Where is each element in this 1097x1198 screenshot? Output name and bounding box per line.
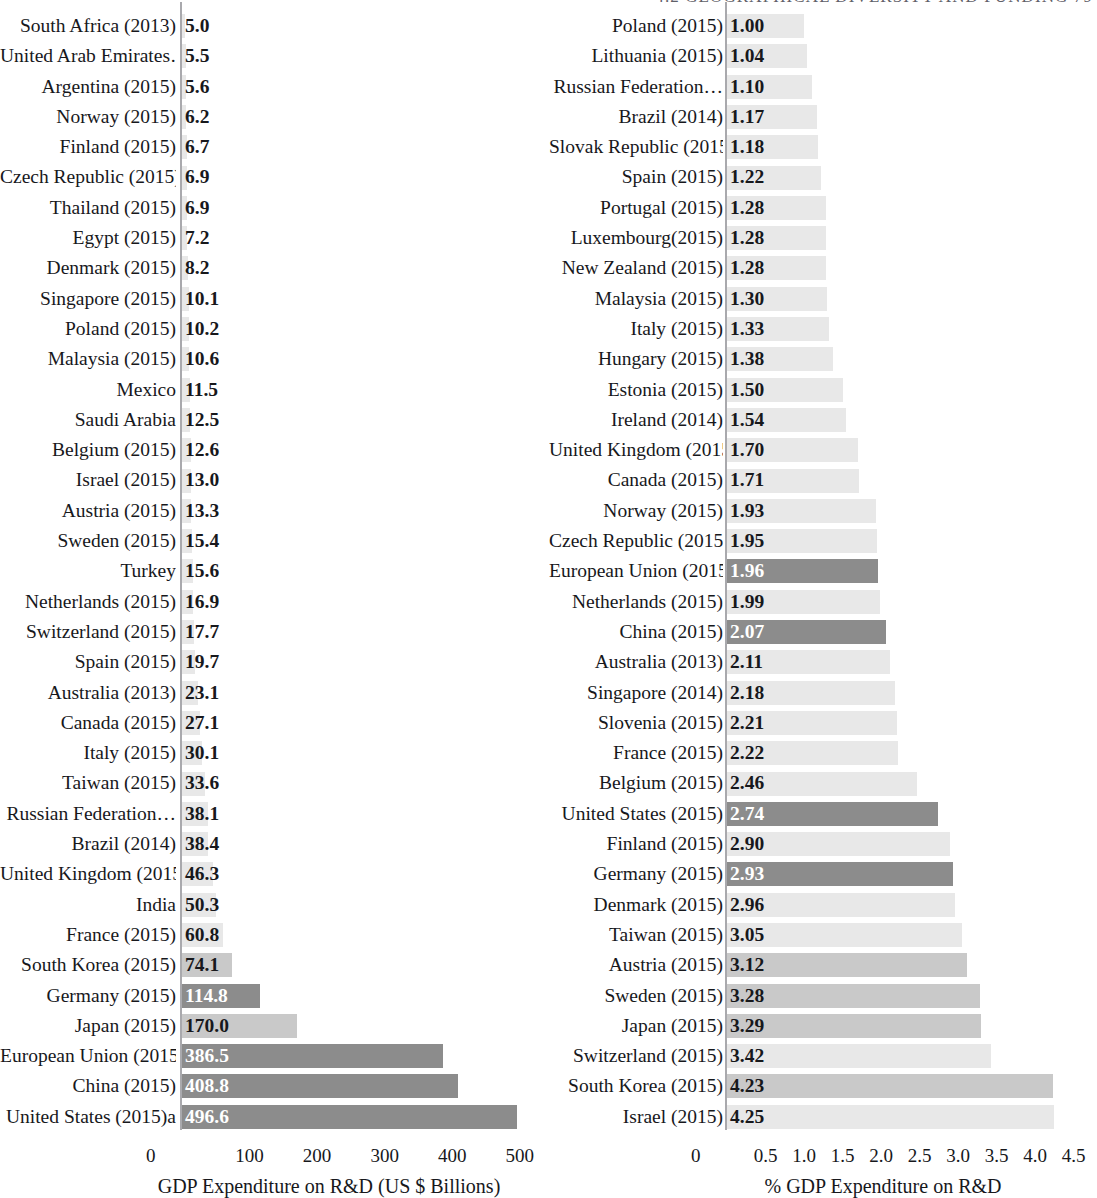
bar-category-label: Czech Republic (2015) xyxy=(0,162,176,192)
bar-value-label: 5.5 xyxy=(185,41,209,71)
bar-value-label: 15.4 xyxy=(185,526,219,556)
bar-track: 1.50 xyxy=(727,375,1093,405)
bar-track: 27.1 xyxy=(182,708,540,738)
x-axis-tick-label: 200 xyxy=(303,1143,332,1169)
bar-track: 38.4 xyxy=(182,829,540,859)
bar-track: 2.46 xyxy=(727,768,1093,798)
bar-row: Russian Federation…38.1 xyxy=(0,799,548,829)
bar-track: 4.25 xyxy=(727,1102,1093,1132)
bar-value-label: 15.6 xyxy=(185,556,219,586)
bar xyxy=(182,1105,517,1129)
bar-value-label: 114.8 xyxy=(185,981,228,1011)
bar-value-label: 1.22 xyxy=(730,162,764,192)
bar-row: United Kingdom (2015)46.3 xyxy=(0,859,548,889)
bar-category-label: Luxembourg(2015) xyxy=(549,223,723,253)
bar-row: Germany (2015)2.93 xyxy=(549,859,1097,889)
chart-panel-gdp-absolute: South Africa (2013)5.0United Arab Emirat… xyxy=(0,0,548,1198)
bar-category-label: Switzerland (2015) xyxy=(549,1041,723,1071)
bar-value-label: 1.70 xyxy=(730,435,764,465)
bar-row: European Union (2015)386.5 xyxy=(0,1041,548,1071)
bar-value-label: 496.6 xyxy=(185,1102,229,1132)
bar-category-label: Spain (2015) xyxy=(549,162,723,192)
bar-category-label: Poland (2015) xyxy=(549,11,723,41)
bar-track: 8.2 xyxy=(182,253,540,283)
bar-track: 114.8 xyxy=(182,981,540,1011)
x-axis-tick-label: 3.5 xyxy=(985,1143,1009,1169)
bar-track: 2.90 xyxy=(727,829,1093,859)
bar-category-label: United Kingdom (2015) xyxy=(0,859,176,889)
bar-category-label: Slovak Republic (2015) xyxy=(549,132,723,162)
bar-track: 1.71 xyxy=(727,465,1093,495)
bar-track: 33.6 xyxy=(182,768,540,798)
bar-value-label: 1.00 xyxy=(730,11,764,41)
bar-value-label: 2.21 xyxy=(730,708,764,738)
bar-category-label: Sweden (2015) xyxy=(0,526,176,556)
bar-track: 12.5 xyxy=(182,405,540,435)
bar-row: Finland (2015)2.90 xyxy=(549,829,1097,859)
bar-value-label: 3.29 xyxy=(730,1011,764,1041)
x-axis-tick-label: 0 xyxy=(691,1143,701,1169)
bar-category-label: Australia (2013) xyxy=(549,647,723,677)
bar-value-label: 12.6 xyxy=(185,435,219,465)
bar-category-label: Israel (2015) xyxy=(549,1102,723,1132)
bar-track: 2.21 xyxy=(727,708,1093,738)
bar-row: United Arab Emirates…5.5 xyxy=(0,41,548,71)
bar-row: France (2015)60.8 xyxy=(0,920,548,950)
x-axis-tick-label: 3.0 xyxy=(946,1143,970,1169)
bar-category-label: European Union (2015) xyxy=(549,556,723,586)
bar-track: 1.70 xyxy=(727,435,1093,465)
chart-panel-gdp-percent: Poland (2015)1.00Lithuania (2015)1.04Rus… xyxy=(549,0,1097,1198)
bar-track: 1.10 xyxy=(727,72,1093,102)
bar-row: Denmark (2015)8.2 xyxy=(0,253,548,283)
bar-row: Taiwan (2015)3.05 xyxy=(549,920,1097,950)
bar-row: Brazil (2014)38.4 xyxy=(0,829,548,859)
bar-row: Norway (2015)6.2 xyxy=(0,102,548,132)
bar-value-label: 13.0 xyxy=(185,465,219,495)
bar-category-label: Norway (2015) xyxy=(0,102,176,132)
bar-row: Belgium (2015)12.6 xyxy=(0,435,548,465)
bar-track: 408.8 xyxy=(182,1071,540,1101)
bar-row: Finland (2015)6.7 xyxy=(0,132,548,162)
bar-category-label: Estonia (2015) xyxy=(549,375,723,405)
bar-value-label: 1.99 xyxy=(730,587,764,617)
bar-value-label: 6.9 xyxy=(185,193,209,223)
bar-category-label: Turkey xyxy=(0,556,176,586)
bar-track: 6.9 xyxy=(182,193,540,223)
bar-row: Spain (2015)1.22 xyxy=(549,162,1097,192)
bar-row: Poland (2015)1.00 xyxy=(549,11,1097,41)
bar xyxy=(727,1044,991,1068)
bar-track: 10.6 xyxy=(182,344,540,374)
bar-row: United States (2015)a496.6 xyxy=(0,1102,548,1132)
bar-row: Egypt (2015)7.2 xyxy=(0,223,548,253)
bar-row: Italy (2015)30.1 xyxy=(0,738,548,768)
bar-value-label: 6.9 xyxy=(185,162,209,192)
bar-category-label: Switzerland (2015) xyxy=(0,617,176,647)
bar-value-label: 2.93 xyxy=(730,859,764,889)
bar-value-label: 1.95 xyxy=(730,526,764,556)
bar-track: 16.9 xyxy=(182,587,540,617)
left-chart-plot-area: South Africa (2013)5.0United Arab Emirat… xyxy=(0,0,548,1143)
bar-track: 1.99 xyxy=(727,587,1093,617)
x-axis-tick-label: 400 xyxy=(438,1143,467,1169)
bar-category-label: Taiwan (2015) xyxy=(0,768,176,798)
bar-category-label: Austria (2015) xyxy=(549,950,723,980)
bar-track: 13.0 xyxy=(182,465,540,495)
bar-row: Singapore (2014)2.18 xyxy=(549,678,1097,708)
bar-row: Switzerland (2015)3.42 xyxy=(549,1041,1097,1071)
bar-category-label: Hungary (2015) xyxy=(549,344,723,374)
right-chart-x-axis: 00.51.01.52.02.53.03.54.04.5 xyxy=(549,1143,1097,1173)
bar xyxy=(727,1105,1054,1129)
bar-row: Israel (2015)13.0 xyxy=(0,465,548,495)
bar-track: 2.93 xyxy=(727,859,1093,889)
bar-row: Canada (2015)1.71 xyxy=(549,465,1097,495)
bar-track: 2.22 xyxy=(727,738,1093,768)
bar-track: 3.29 xyxy=(727,1011,1093,1041)
bar-track: 3.42 xyxy=(727,1041,1093,1071)
bar-row: Taiwan (2015)33.6 xyxy=(0,768,548,798)
bar-value-label: 1.28 xyxy=(730,253,764,283)
bar-row: Malaysia (2015)1.30 xyxy=(549,284,1097,314)
bar-row: Mexico11.5 xyxy=(0,375,548,405)
bar-category-label: New Zealand (2015) xyxy=(549,253,723,283)
bar-row: Israel (2015)4.25 xyxy=(549,1102,1097,1132)
